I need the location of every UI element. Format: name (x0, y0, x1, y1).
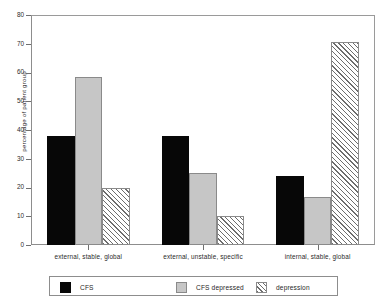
chart-legend: CFSCFS depresseddepression (49, 276, 338, 296)
legend-swatch-icon (60, 282, 71, 293)
legend-label: depression (276, 284, 310, 291)
legend-item-cfs-depressed[interactable]: CFS depressed (176, 281, 244, 293)
y-tick-label: 70 (0, 41, 24, 47)
legend-item-depression[interactable]: depression (256, 281, 310, 293)
legend-item-cfs[interactable]: CFS (60, 281, 94, 293)
x-tick-mark (88, 245, 89, 250)
legend-swatch-icon (256, 282, 267, 293)
bar-chart: percentage of patient group 010203040506… (0, 0, 391, 305)
y-tick-mark (26, 245, 31, 246)
bar-depression (102, 188, 130, 246)
y-tick-label: 20 (0, 184, 24, 190)
y-tick-label: 30 (0, 156, 24, 162)
plot-area (31, 15, 375, 245)
bar-depression (331, 42, 359, 245)
y-tick-label: 60 (0, 69, 24, 75)
x-tick-mark (203, 245, 204, 250)
bar-cfs (276, 176, 304, 245)
bar-cfs-depressed (304, 197, 332, 245)
legend-swatch-icon (176, 282, 187, 293)
y-tick-label: 40 (0, 127, 24, 133)
y-tick-label: 10 (0, 213, 24, 219)
bar-cfs (162, 136, 190, 245)
x-tick-mark (318, 245, 319, 250)
x-tick-label: internal, stable, global (233, 253, 391, 261)
bar-cfs (47, 136, 75, 245)
y-tick-label: 0 (0, 242, 24, 248)
y-tick-label: 80 (0, 12, 24, 18)
bar-cfs-depressed (75, 77, 103, 245)
y-tick-label: 50 (0, 98, 24, 104)
bar-cfs-depressed (189, 173, 217, 245)
y-axis-title: percentage of patient group (20, 32, 27, 192)
legend-label: CFS depressed (196, 284, 244, 291)
bar-depression (217, 216, 245, 245)
legend-label: CFS (80, 284, 94, 291)
